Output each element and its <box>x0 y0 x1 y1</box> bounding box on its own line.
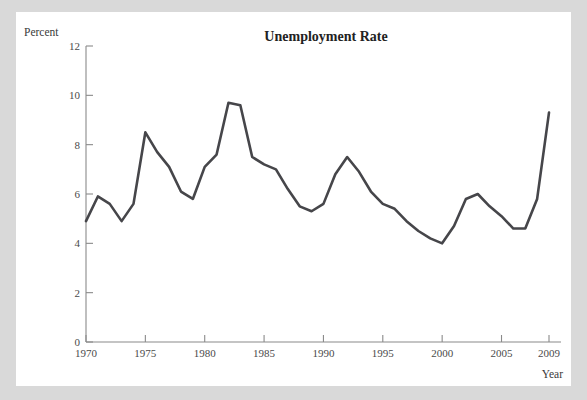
x-tick-label: 1990 <box>312 347 335 359</box>
y-axis: 024681012 <box>69 40 93 348</box>
x-tick-label: 2005 <box>491 347 514 359</box>
y-tick-label: 6 <box>75 188 81 200</box>
y-tick-label: 4 <box>75 237 81 249</box>
x-axis: 197019751980198519901995200020052009 <box>75 335 561 359</box>
x-tick-label: 1975 <box>134 347 157 359</box>
chart-figure-panel: Unemployment Rate Percent Year 024681012… <box>16 12 571 386</box>
unemployment-rate-line-chart: Unemployment Rate Percent Year 024681012… <box>16 12 571 386</box>
x-tick-label: 1985 <box>253 347 276 359</box>
x-tick-label: 2009 <box>538 347 561 359</box>
x-tick-label: 1995 <box>372 347 395 359</box>
y-tick-label: 10 <box>69 89 81 101</box>
x-tick-label: 1970 <box>75 347 98 359</box>
x-tick-label: 1980 <box>194 347 217 359</box>
y-tick-label: 12 <box>69 40 80 52</box>
x-axis-title: Year <box>542 368 563 380</box>
y-tick-label: 8 <box>75 139 81 151</box>
x-tick-label: 2000 <box>431 347 454 359</box>
page-title: Unemployment Rate <box>264 29 387 44</box>
y-axis-title: Percent <box>24 26 59 38</box>
y-tick-label: 2 <box>75 287 81 299</box>
data-series-line <box>86 103 549 244</box>
